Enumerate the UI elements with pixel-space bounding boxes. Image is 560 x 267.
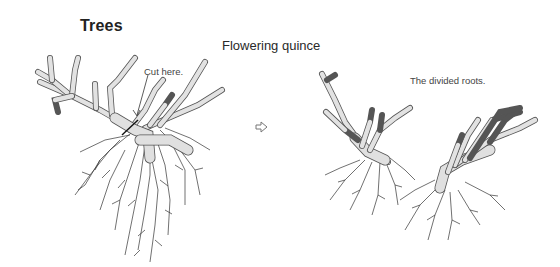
divided-plant-left <box>322 74 415 215</box>
divided-plant-right <box>400 108 535 240</box>
arrow-right-icon <box>254 120 270 134</box>
illustration-canvas: .br { fill:none; stroke:#555; stroke-wid… <box>0 0 560 267</box>
whole-shrub-illustration <box>38 58 222 262</box>
